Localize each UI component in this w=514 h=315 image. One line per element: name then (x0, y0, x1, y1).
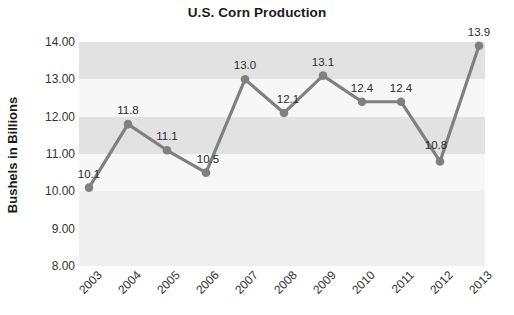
series-line-and-markers (79, 42, 485, 266)
y-tick-label: 10.00 (21, 184, 75, 198)
data-point-value-label: 10.8 (425, 139, 447, 151)
corn-production-line-chart: U.S. Corn Production Bushels in Billions… (0, 0, 514, 315)
x-tick-label: 2007 (223, 268, 261, 306)
data-point-marker (163, 146, 172, 155)
x-tick-label: 2008 (262, 268, 300, 306)
x-tick-label: 2005 (145, 268, 183, 306)
plot-area (79, 42, 485, 266)
x-axis-tick-labels: 2003200420052006200720082009201020112012… (79, 268, 485, 314)
y-tick-label: 13.00 (21, 72, 75, 86)
y-tick-label: 8.00 (21, 259, 75, 273)
data-point-marker (475, 41, 484, 50)
x-tick-label: 2010 (340, 268, 378, 306)
data-point-value-label: 10.5 (197, 153, 219, 165)
data-point-value-label: 10.1 (78, 168, 100, 180)
x-tick-label: 2012 (418, 268, 456, 306)
y-tick-label: 14.00 (21, 35, 75, 49)
data-point-value-label: 12.4 (390, 82, 412, 94)
data-point-marker (280, 109, 289, 118)
data-point-value-label: 13.9 (468, 26, 490, 38)
x-tick-label: 2009 (301, 268, 339, 306)
data-point-marker (124, 120, 133, 129)
data-point-value-label: 12.4 (351, 82, 373, 94)
data-point-marker (202, 168, 211, 177)
chart-title: U.S. Corn Production (0, 5, 514, 20)
data-point-marker (358, 97, 367, 106)
data-point-marker (319, 71, 328, 80)
x-tick-label: 2011 (379, 268, 417, 306)
x-tick-label: 2013 (457, 268, 495, 306)
data-point-marker (397, 97, 406, 106)
data-point-marker (85, 183, 94, 192)
y-tick-label: 9.00 (21, 222, 75, 236)
data-point-value-label: 12.1 (277, 93, 299, 105)
x-tick-label: 2006 (184, 268, 222, 306)
data-point-value-label: 13.0 (234, 59, 256, 71)
data-point-marker (241, 75, 250, 84)
y-tick-label: 11.00 (21, 147, 75, 161)
y-tick-label: 12.00 (21, 110, 75, 124)
data-point-value-label: 11.8 (117, 104, 139, 116)
data-point-value-label: 13.1 (312, 56, 334, 68)
data-point-marker (436, 157, 445, 166)
data-point-value-label: 11.1 (156, 130, 178, 142)
x-tick-label: 2004 (106, 268, 144, 306)
y-axis-tick-labels: 14.0013.0012.0011.0010.009.008.00 (18, 0, 75, 315)
